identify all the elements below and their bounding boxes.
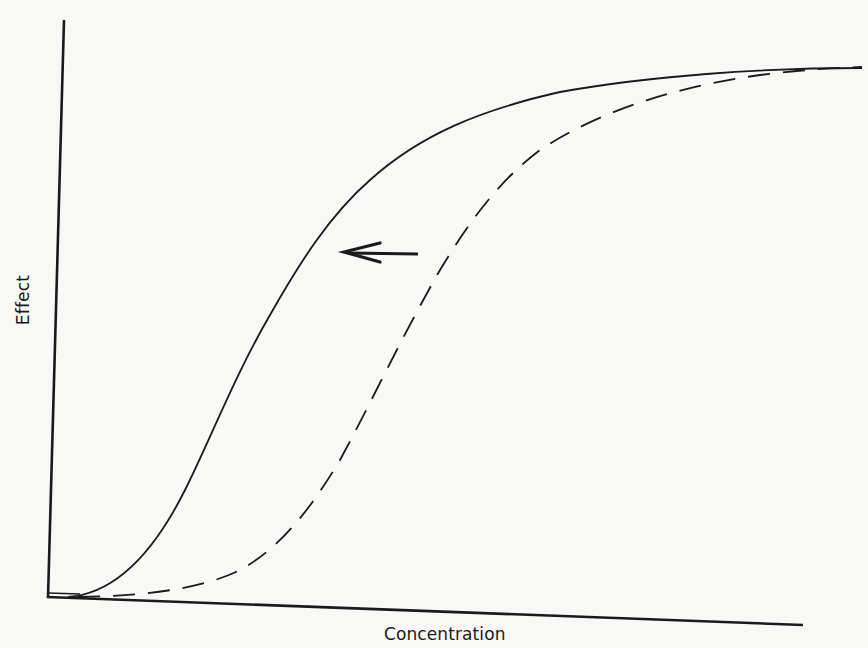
concentration-effect-chart: Effect Concentration bbox=[0, 0, 868, 648]
arrow-left-icon bbox=[344, 243, 418, 262]
chart-plot-area bbox=[0, 0, 868, 648]
baseline-segment bbox=[48, 593, 80, 594]
dashed-curve bbox=[78, 67, 862, 597]
x-axis-label: Concentration bbox=[384, 624, 506, 644]
y-axis-label: Effect bbox=[13, 270, 33, 330]
y-axis-line bbox=[48, 20, 64, 598]
x-axis-line bbox=[47, 597, 803, 625]
solid-curve bbox=[68, 68, 862, 597]
